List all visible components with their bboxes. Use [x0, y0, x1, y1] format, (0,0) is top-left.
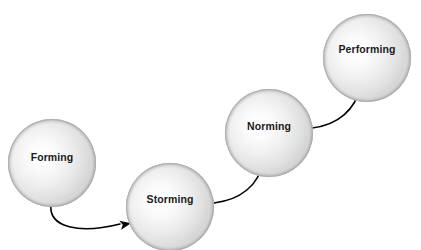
- stage-node-performing[interactable]: Performing: [323, 14, 411, 102]
- stage-label-forming: Forming: [31, 151, 74, 163]
- stage-label-performing: Performing: [338, 43, 395, 55]
- stage-label-norming: Norming: [247, 120, 291, 132]
- connector-curve: [51, 204, 120, 229]
- stage-node-norming[interactable]: Norming: [225, 89, 313, 177]
- stage-nodes-layer: FormingStormingNormingPerforming: [8, 14, 411, 250]
- stage-node-forming[interactable]: Forming: [8, 119, 96, 207]
- diagram-canvas: FormingStormingNormingPerforming: [0, 0, 421, 250]
- connector-arrow-forming-to-storming: [51, 204, 132, 230]
- stage-node-storming[interactable]: Storming: [126, 163, 214, 250]
- stage-label-storming: Storming: [147, 193, 194, 205]
- process-flow-diagram: FormingStormingNormingPerforming: [0, 0, 421, 250]
